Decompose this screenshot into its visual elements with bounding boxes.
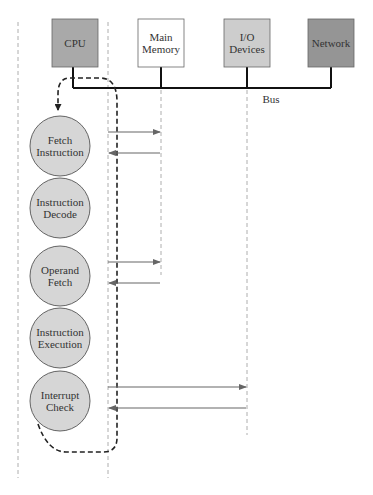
system-bus	[73, 67, 331, 88]
stage-label: Check	[46, 401, 75, 413]
cpu-box: CPU	[52, 19, 98, 67]
stage-instruction-execution: InstructionExecution	[30, 308, 90, 368]
stage-instruction-decode: InstructionDecode	[30, 178, 90, 238]
network-box: Network	[308, 19, 354, 67]
stage-label: Instruction	[36, 196, 84, 208]
main-memory-box: MainMemory	[138, 19, 184, 67]
stage-label: Fetch	[48, 276, 73, 288]
stage-label: Instruction	[36, 146, 84, 158]
stage-label: Fetch	[48, 134, 73, 146]
io-devices-label: I/O	[240, 31, 255, 43]
io-devices-box: I/ODevices	[224, 19, 270, 67]
bus-label: Bus	[262, 93, 279, 105]
io-devices-label: Devices	[229, 43, 264, 55]
main-memory-label: Memory	[142, 43, 180, 55]
cpu-label: CPU	[64, 37, 85, 49]
stages: FetchInstructionInstructionDecodeOperand…	[30, 116, 90, 431]
cpu-instruction-cycle-diagram: CPUMainMemoryI/ODevicesNetwork FetchInst…	[0, 0, 373, 495]
stage-label: Execution	[38, 338, 83, 350]
stage-label: Interrupt	[41, 389, 79, 401]
stage-label: Decode	[43, 208, 77, 220]
components: CPUMainMemoryI/ODevicesNetwork	[52, 19, 354, 67]
stage-label: Operand	[41, 264, 79, 276]
stage-label: Instruction	[36, 326, 84, 338]
bus-transfer-arrows	[108, 132, 246, 408]
network-label: Network	[312, 37, 351, 49]
stage-operand-fetch: OperandFetch	[30, 246, 90, 306]
stage-interrupt-check: InterruptCheck	[30, 371, 90, 431]
stage-fetch-instruction: FetchInstruction	[30, 116, 90, 176]
main-memory-label: Main	[149, 31, 173, 43]
